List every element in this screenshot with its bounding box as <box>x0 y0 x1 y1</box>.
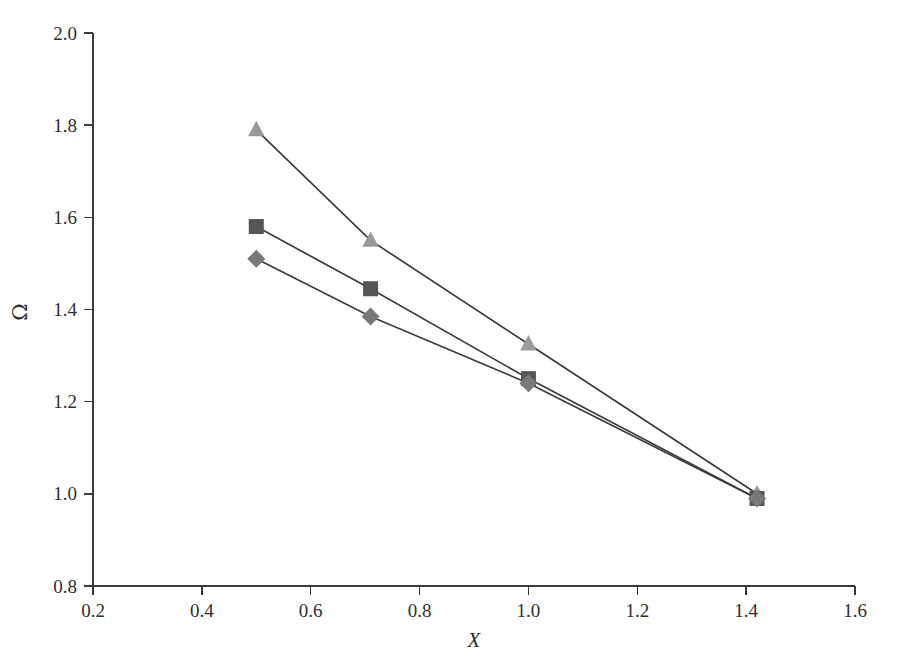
axis-frame-lines <box>93 33 855 586</box>
x-axis-tick-label: 0.2 <box>81 600 105 621</box>
chart-figure: 0.81.01.21.41.61.82.0 0.20.40.60.81.01.2… <box>0 0 911 661</box>
chart-plot-area: 0.81.01.21.41.61.82.0 0.20.40.60.81.01.2… <box>0 0 911 661</box>
y-axis-tick-label: 1.6 <box>53 207 77 228</box>
y-axis-tick-label: 1.8 <box>53 115 77 136</box>
x-axis-tick-label: 1.4 <box>734 600 758 621</box>
y-axis-title: Ω <box>8 303 32 320</box>
data-point-diamond <box>362 307 380 325</box>
x-axis-tick-label: 1.2 <box>625 600 649 621</box>
data-point-square <box>363 281 378 296</box>
series-line-triangle <box>256 130 757 494</box>
x-axis-tick-label: 0.6 <box>299 600 323 621</box>
x-axis-tick-label: 1.0 <box>517 600 541 621</box>
y-axis-tick-label: 1.2 <box>53 391 77 412</box>
data-point-square <box>249 219 264 234</box>
y-axis-tick-label: 2.0 <box>53 23 77 44</box>
y-axis-tick-label: 0.8 <box>53 576 77 597</box>
x-axis-tick-label: 1.6 <box>843 600 867 621</box>
y-axis-tick-group: 0.81.01.21.41.61.82.0 <box>53 23 93 597</box>
series-line-square <box>256 227 757 499</box>
y-axis-tick-label: 1.4 <box>53 299 77 320</box>
series-line-diamond <box>256 259 757 499</box>
x-axis-tick-label: 0.4 <box>190 600 214 621</box>
x-axis-title: X <box>467 628 482 652</box>
data-point-diamond <box>247 250 265 268</box>
data-point-triangle <box>248 121 265 136</box>
x-axis-tick-group: 0.20.40.60.81.01.21.41.6 <box>81 586 867 621</box>
x-axis-tick-label: 0.8 <box>408 600 432 621</box>
data-point-triangle <box>520 335 537 350</box>
y-axis-tick-label: 1.0 <box>53 483 77 504</box>
series-line-group <box>256 130 757 499</box>
